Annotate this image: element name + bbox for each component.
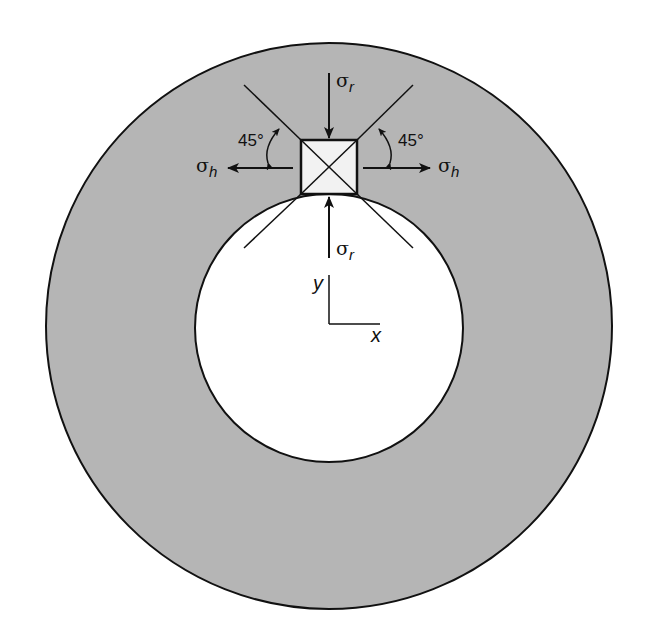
- cylinder-stress-diagram: σr σr σh σh 45° 45° y x: [0, 0, 656, 629]
- angle-label-right: 45°: [398, 131, 424, 150]
- angle-label-left: 45°: [238, 131, 264, 150]
- y-axis-label: y: [311, 272, 324, 294]
- x-axis-label: x: [370, 324, 382, 346]
